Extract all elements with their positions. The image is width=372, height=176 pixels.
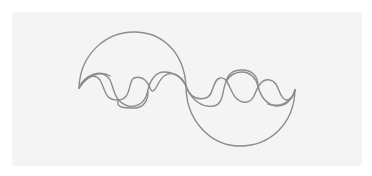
lower-wave-a (186, 78, 295, 102)
lower-arc (186, 86, 295, 146)
wave-emblem-figure (0, 0, 372, 176)
upper-wave-a (79, 74, 186, 100)
wave-emblem-strokes (79, 32, 295, 146)
